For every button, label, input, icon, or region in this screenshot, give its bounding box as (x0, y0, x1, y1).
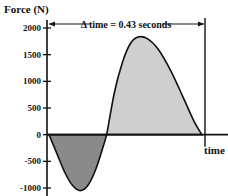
y-tick-label: -1000 (20, 183, 41, 193)
y-tick-label: 0 (37, 130, 42, 140)
positive-impulse-area (107, 37, 202, 135)
y-tick-label: 500 (28, 103, 42, 113)
y-tick-label: 2000 (23, 23, 42, 33)
y-tick-label: 1000 (23, 76, 42, 86)
arrowhead-right-icon (198, 22, 204, 27)
y-axis-label: Force (N) (4, 3, 49, 16)
x-axis-label: time (204, 144, 225, 156)
arrowhead-left-icon (49, 22, 55, 27)
y-tick-label: -500 (25, 156, 42, 166)
force-time-chart: 2000150010005000-500-1000 Force (N) time… (0, 0, 228, 196)
negative-impulse-area (49, 135, 107, 191)
y-tick-label: 1500 (23, 50, 42, 60)
duration-annotation: Δ time = 0.43 seconds (81, 19, 172, 30)
